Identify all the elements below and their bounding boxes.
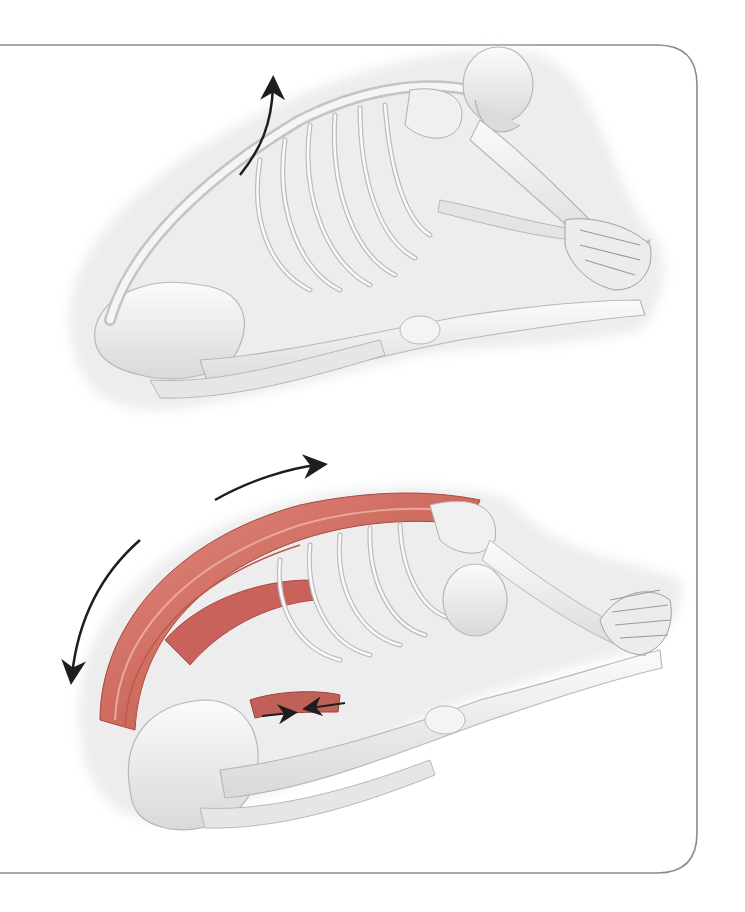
top-skeleton bbox=[69, 47, 664, 410]
bottom-skeleton bbox=[79, 487, 681, 829]
anatomy-illustration bbox=[0, 0, 745, 912]
skull bbox=[443, 564, 507, 636]
scapula bbox=[405, 89, 462, 138]
skull bbox=[463, 47, 533, 123]
upper-back-arc-arrow bbox=[215, 465, 318, 500]
